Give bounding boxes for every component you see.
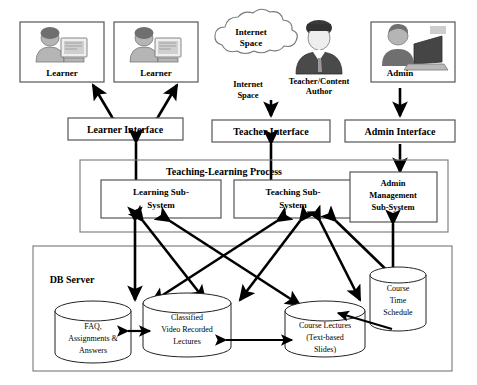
internet-space-cloud: Internet Space (215, 9, 297, 53)
process-title: Teaching-Learning Process (166, 166, 282, 177)
actor-label: Admin (387, 68, 414, 78)
internet-space-caption: Internet Space (233, 79, 263, 100)
interface-label: Teacher Interface (233, 126, 309, 137)
store-label-line1: FAQ, (84, 322, 101, 331)
actor-label-line2: Author (306, 86, 333, 96)
actor-learner-1: Learner (20, 22, 104, 82)
store-label-line3: Slides) (314, 345, 337, 354)
arrow-learning-to-course-lectures (170, 221, 300, 305)
arrow-learner2-to-learner-interface (158, 85, 177, 117)
arrow-teaching-to-course-lectures (320, 221, 360, 300)
course-time-schedule-store-cylinder: Course Time Schedule (370, 267, 426, 331)
actor-label: Learner (140, 68, 172, 78)
caption-line1: Internet (233, 79, 263, 89)
db-server-label: DB Server (50, 274, 95, 285)
subsystem-label-line1: Admin (380, 178, 405, 188)
diagram-canvas: Learner Learner Internet Space Internet … (0, 0, 477, 385)
store-label-line2: (Text-based (306, 333, 344, 342)
cloud-label-line2: Space (240, 38, 263, 48)
course-lectures-store-cylinder: Course Lectures (Text-based Slides) (285, 301, 365, 357)
store-label-line2: Time (390, 296, 407, 305)
actor-learner-2: Learner (114, 22, 198, 82)
subsystem-label-line1: Learning Sub- (133, 187, 189, 197)
learning-sub-system-box: Learning Sub- System (101, 180, 221, 218)
interface-label: Admin Interface (365, 126, 436, 137)
subsystem-label-line1: Teaching Sub- (266, 187, 321, 197)
teaching-sub-system-box: Teaching Sub- System (234, 180, 352, 218)
actor-label-line1: Teacher/Content (289, 76, 350, 86)
learner-interface-box: Learner Interface (68, 118, 183, 140)
store-label-line2: Video Recorded (161, 325, 213, 334)
subsystem-label-line3: Sub-System (372, 202, 415, 212)
caption-line2: Space (237, 90, 258, 100)
store-label-line3: Lectures (173, 337, 201, 346)
subsystem-label-line2: System (147, 200, 175, 210)
store-label-line2: Assignments & (68, 334, 118, 343)
actor-label: Learner (46, 68, 78, 78)
subsystem-label-line2: Management (369, 190, 417, 200)
store-label-line3: Answers (79, 346, 107, 355)
teacher-interface-box: Teacher Interface (212, 120, 330, 142)
faq-store-cylinder: FAQ, Assignments & Answers (55, 301, 131, 363)
store-label-line3: Schedule (383, 308, 413, 317)
store-label-line1: Course Lectures (299, 321, 351, 330)
arrow-teaching-to-faq (152, 221, 277, 302)
subsystem-label-line2: System (279, 200, 307, 210)
businessman-icon (296, 20, 342, 74)
arrow-learner1-to-learner-interface (93, 85, 112, 117)
video-lectures-store-cylinder: Classified Video Recorded Lectures (143, 293, 231, 357)
cloud-label-line1: Internet (235, 27, 267, 37)
actor-teacher-content-author: Teacher/Content Author (289, 20, 350, 96)
architecture-diagram: Learner Learner Internet Space Internet … (0, 0, 477, 385)
arrow-teaching-to-video (240, 221, 300, 300)
store-label-line1: Classified (171, 313, 203, 322)
store-label-line1: Course (387, 284, 410, 293)
admin-management-sub-system-box: Admin Management Sub-System (350, 172, 437, 222)
interface-label: Learner Interface (87, 124, 164, 135)
admin-interface-box: Admin Interface (345, 120, 455, 142)
actor-admin: Admin (371, 22, 455, 82)
